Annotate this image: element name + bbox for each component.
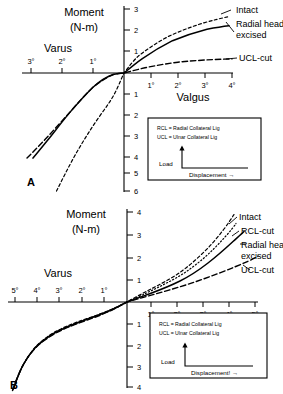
panel-a-letter: A [27, 176, 35, 188]
panel-a-xlabel-varus-3: 3° [27, 57, 34, 66]
panel-b-varus-label: Varus [44, 267, 72, 279]
panel-a-xlabel-varus-1: 1° [89, 57, 96, 66]
panel-a-legend-displacement-label: Displacement → [189, 171, 234, 178]
panel-a-ylabel-2: 2 [134, 26, 138, 35]
panel-a-label-excised: excised [236, 30, 267, 40]
panel-b-letter: B [10, 379, 18, 391]
panel-b-legend-line2: UCL = Ulnar Collateral Lig [159, 330, 219, 336]
panel-a-ylabel-neg1: 1 [134, 90, 138, 99]
figure-container: 3° 2° 1° 1° 2° 3° 4° 3 2 1 1 2 3 4 5 6 M… [0, 0, 283, 394]
panel-b-legend-line1: RCL = Radial Collateral Lig [159, 321, 222, 327]
panel-b-label-excised: excised [241, 251, 272, 261]
panel-a-xlabel-varus-2: 2° [58, 57, 65, 66]
panel-b-xlabel-varus-3: 3° [55, 286, 62, 295]
panel-b-label-rcl-cut: RCL-cut [241, 226, 275, 236]
panel-a-xlabel-valgus-4: 4° [228, 81, 235, 90]
panel-a-xlabel-valgus-2: 2° [174, 81, 181, 90]
panel-a-ylabel-neg3: 3 [134, 132, 138, 141]
chart-panel-b: 5° 4° 3° 2° 1° 1° 2° 3° 4° 5° 4 3 2 1 1 … [0, 196, 283, 394]
panel-a-leader-ucl-cut [226, 58, 237, 59]
panel-a-ylabel-neg2: 2 [134, 111, 138, 120]
panel-a-ylabel-neg4: 4 [134, 153, 138, 162]
panel-a-label-ucl-cut: UCL-cut [239, 53, 273, 63]
panel-b-legend-displacement-label: Displacement! → [191, 369, 238, 376]
panel-a-label-intact: Intact [236, 5, 259, 15]
panel-a-xlabel-valgus-3: 3° [201, 81, 208, 90]
panel-b-ylabel-neg4: 4 [137, 383, 141, 392]
panel-b-xlabel-varus-5: 5° [11, 286, 18, 295]
panel-a-legend-load-label: Load [159, 160, 173, 167]
panel-b-ylabel-neg3: 3 [137, 363, 141, 372]
panel-a-xlabel-valgus-1: 1° [147, 81, 154, 90]
panel-a-leader-radial-head [226, 22, 234, 32]
panel-b-ylabel-neg1: 1 [137, 320, 141, 329]
panel-b-label-radial-heat: Radial heat [241, 240, 283, 250]
panel-b-ylabel-3: 3 [137, 231, 141, 240]
panel-a-leader-intact [221, 10, 231, 14]
panel-a-ylabel-neg5: 5 [134, 169, 138, 178]
panel-a-ylabel-1: 1 [134, 47, 138, 56]
panel-b-y-axis-title-line2: (N-m) [72, 223, 100, 235]
panel-a-legend-line1: RCL = Radial Collateral Lig [157, 125, 220, 131]
panel-b-xlabel-varus-1: 1° [100, 286, 107, 295]
panel-b-xlabel-varus-4: 4° [33, 286, 40, 295]
panel-b-ylabel-1: 1 [137, 276, 141, 285]
panel-b-label-ucl-cut: UCL-cut [241, 265, 275, 275]
panel-a-varus-label: Varus [44, 42, 72, 54]
panel-a-ylabel-neg6: 6 [134, 187, 138, 196]
panel-b-legend-load-label: Load [161, 358, 175, 365]
chart-panel-a: 3° 2° 1° 1° 2° 3° 4° 3 2 1 1 2 3 4 5 6 M… [0, 0, 283, 196]
panel-b-label-intact: Intact [239, 212, 262, 222]
panel-a-label-radial-head: Radial head [236, 19, 283, 29]
panel-b-leader-rcl-cut [232, 231, 239, 236]
panel-a-valgus-label: Valgus [177, 91, 210, 103]
panel-a-y-axis-title-line1: Moment [64, 6, 104, 18]
panel-a-legend-line2: UCL = Ulnar Collateral Lig [157, 134, 217, 140]
panel-b-ylabel-4: 4 [137, 208, 141, 217]
panel-b-ylabel-2: 2 [137, 254, 141, 263]
panel-a-y-axis-title-line2: (N-m) [70, 21, 98, 33]
panel-a-ylabel-3: 3 [134, 5, 138, 14]
panel-b-xlabel-varus-2: 2° [78, 286, 85, 295]
panel-b-ylabel-neg2: 2 [137, 342, 141, 351]
panel-b-y-axis-title-line1: Moment [66, 208, 106, 220]
